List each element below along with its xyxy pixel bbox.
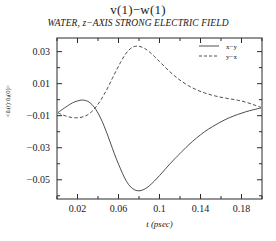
plot-area: 0.020.060.10.140.180.030.01−0.01−0.03−0.…: [0, 0, 276, 241]
axes-layer: 0.020.060.10.140.180.030.01−0.01−0.03−0.…: [27, 38, 262, 214]
legend-label-1: x−y: [226, 43, 237, 51]
x-tick-label: 0.18: [233, 203, 251, 214]
chart-subtitle: WATER, z−AXIS STRONG ELECTRIC FIELD: [0, 18, 276, 28]
x-tick-label: 0.14: [192, 203, 210, 214]
x-axis-label: t (psec): [57, 219, 262, 229]
series-layer: [58, 46, 261, 191]
y-tick-label: −0.01: [27, 110, 50, 121]
y-tick-label: 0.01: [33, 78, 51, 89]
chart-figure: v(1)−w(1) WATER, z−AXIS STRONG ELECTRIC …: [0, 0, 276, 241]
x-tick-label: 0.02: [69, 203, 87, 214]
legend-label-2: y−x: [226, 53, 237, 61]
y-tick-label: −0.05: [27, 174, 50, 185]
y-axis-label: <ũᵢ(t)·ũⱼ(0)>: [4, 69, 12, 133]
y-tick-label: 0.03: [33, 46, 51, 57]
series-line-1: [58, 100, 261, 191]
chart-title: v(1)−w(1): [0, 2, 276, 18]
y-tick-label: −0.03: [27, 142, 50, 153]
x-tick-label: 0.1: [153, 203, 166, 214]
legend-layer: x−yy−x: [199, 43, 237, 61]
x-tick-label: 0.06: [110, 203, 128, 214]
